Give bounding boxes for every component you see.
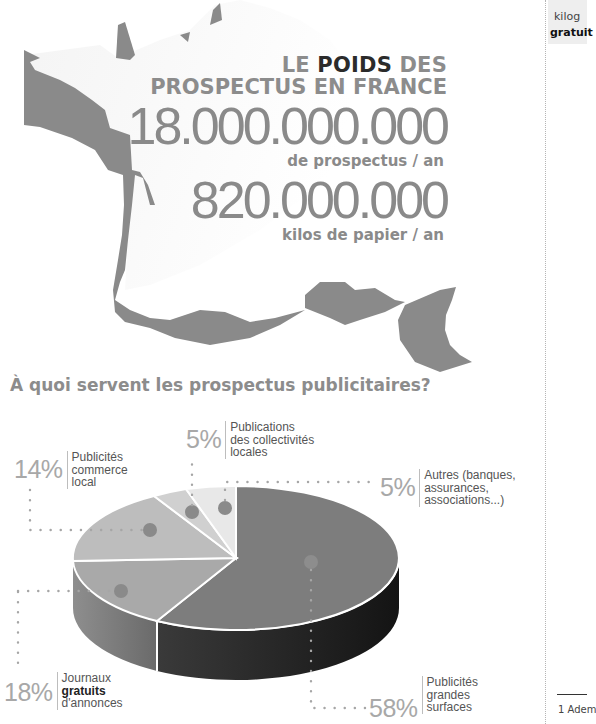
label-grandes-surfaces: 58% Publicités grandes surfaces (369, 676, 478, 721)
side-text-line1: kilog (554, 10, 580, 23)
label-commerce: 14% Publicités commerce local (14, 451, 128, 489)
headline-bold: POIDS (317, 53, 392, 77)
marker-commerce (143, 523, 157, 537)
map-north-peak (116, 22, 135, 60)
headline: LE POIDS DES PROSPECTUS EN FRANCE (150, 55, 447, 98)
marker-autres (218, 501, 232, 515)
marker-grandes-surfaces (304, 555, 318, 569)
label-collectivites: 5% Publications des collectivités locale… (186, 421, 314, 459)
side-text-line2: gratuit (550, 26, 593, 39)
stat-paper-value: 820.000.000 (191, 174, 447, 226)
stat-prospectus-unit: de prospectus / an (287, 152, 444, 170)
pct-collectivites: 5% (186, 427, 221, 452)
marker-collectivites (185, 505, 199, 519)
column-divider (545, 0, 546, 724)
section-title: À quoi servent les prospectus publicitai… (10, 375, 431, 395)
footnote-rule (557, 694, 587, 695)
pct-grandes-surfaces: 58% (369, 696, 418, 721)
headline-line1: LE POIDS DES (150, 55, 447, 76)
footnote: 1 Adem (558, 704, 596, 715)
map-south-east (305, 282, 405, 325)
pct-commerce: 14% (14, 457, 63, 482)
stat-prospectus-value: 18.000.000.000 (128, 100, 447, 152)
pct-journaux: 18% (4, 680, 53, 705)
marker-journaux (114, 584, 128, 598)
label-autres: 5% Autres (banques, assurances, associat… (380, 469, 516, 507)
map-east (398, 287, 472, 372)
headline-line2: PROSPECTUS EN FRANCE (150, 77, 447, 98)
label-journaux: 18% Journaux gratuits d'annonces (4, 672, 123, 710)
pct-autres: 5% (380, 475, 415, 500)
stat-paper-unit: kilos de papier / an (282, 226, 444, 244)
